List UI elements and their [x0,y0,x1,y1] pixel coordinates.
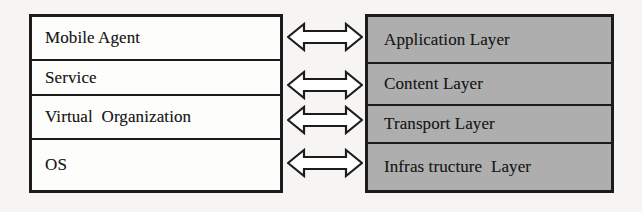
layer-stack-cell-content-layer: Content Layer [368,62,611,104]
layer-stack-cell-label: Infras tructure Layer [384,157,531,177]
agent-stack-cell-label: Mobile Agent [45,28,140,48]
double-headed-arrow-icon [287,20,363,54]
double-headed-arrow-icon [287,103,363,137]
layered-architecture-diagram: Mobile Agent Service Virtual Organizatio… [0,0,642,212]
layer-stack-cell-application-layer: Application Layer [368,17,611,62]
layer-stack-cell-transport-layer: Transport Layer [368,104,611,142]
double-headed-arrow-icon [287,146,363,180]
agent-stack-cell-os: OS [32,138,280,190]
agent-stack-cell-label: Service [45,68,97,88]
layer-stack-cell-label: Transport Layer [384,114,495,134]
agent-stack-cell-mobile-agent: Mobile Agent [32,17,280,59]
layer-stack-cell-label: Application Layer [384,30,510,50]
agent-stack-cell-label: Virtual Organization [45,107,191,127]
layer-stack: Application Layer Content Layer Transpor… [365,14,614,193]
double-headed-arrow-icon [287,68,363,102]
agent-stack-cell-virtual-organization: Virtual Organization [32,94,280,138]
layer-stack-cell-label: Content Layer [384,74,483,94]
agent-stack: Mobile Agent Service Virtual Organizatio… [29,14,283,193]
layer-stack-cell-infrastructure-layer: Infras tructure Layer [368,142,611,190]
agent-stack-cell-label: OS [45,155,67,175]
agent-stack-cell-service: Service [32,59,280,94]
